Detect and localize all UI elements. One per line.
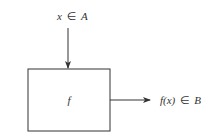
function-label: f (67, 94, 72, 106)
output-label: f(x) ∈ B (160, 94, 201, 107)
input-label: x ∈ A (56, 10, 88, 23)
svg-text:x ∈ A: x ∈ A (56, 10, 88, 23)
svg-text:f(x) ∈ B: f(x) ∈ B (160, 94, 201, 107)
function-diagram: x ∈ A f f(x) ∈ B (0, 0, 219, 138)
